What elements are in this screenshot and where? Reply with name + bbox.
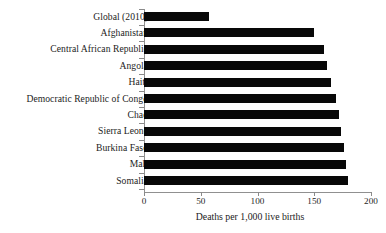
bar [144, 143, 344, 152]
category-label: Sierra Leone [98, 126, 148, 136]
bar [144, 28, 314, 37]
y-axis-tick [139, 74, 144, 75]
bar [144, 94, 336, 103]
x-axis-tick-label: 200 [364, 196, 378, 206]
bar [144, 78, 331, 87]
x-axis-tick-label: 150 [307, 196, 321, 206]
y-axis-tick [139, 173, 144, 174]
y-axis-tick [139, 91, 144, 92]
x-axis-tick-label: 100 [251, 196, 265, 206]
x-axis-title: Deaths per 1,000 live births [0, 211, 386, 222]
y-axis-tick [139, 58, 144, 59]
bar [144, 160, 346, 169]
bar-chart: Global (2010)AfghanistanCentral African … [0, 0, 386, 233]
y-axis-tick [139, 107, 144, 108]
bar [144, 127, 341, 136]
x-axis-tick-label: 50 [196, 196, 205, 206]
y-axis-tick [139, 41, 144, 42]
y-axis-tick [139, 123, 144, 124]
category-label: Global (2010) [93, 12, 148, 22]
x-axis-title-text: Deaths per 1,000 live births [82, 211, 305, 222]
category-label: Afghanistan [101, 28, 148, 38]
bar [144, 176, 348, 185]
y-axis-tick [139, 156, 144, 157]
y-axis-tick [139, 140, 144, 141]
category-label: Central African Republic [50, 44, 148, 54]
bar [144, 12, 209, 21]
bar [144, 110, 339, 119]
x-axis-tick-label: 0 [142, 196, 147, 206]
y-axis-tick [139, 9, 144, 10]
bar [144, 45, 324, 54]
y-axis-tick [139, 25, 144, 26]
plot-area: Global (2010)AfghanistanCentral African … [0, 0, 386, 233]
y-axis-tick [139, 189, 144, 190]
category-label: Democratic Republic of Congo [26, 94, 148, 104]
category-label: Burkina Faso [96, 143, 148, 153]
bar [144, 61, 327, 70]
